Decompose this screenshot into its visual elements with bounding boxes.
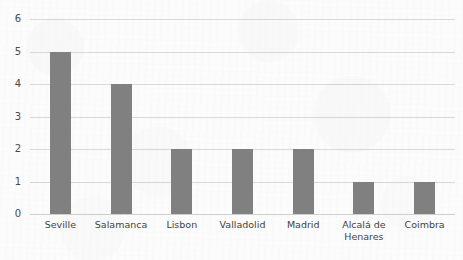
bars-layer xyxy=(30,19,455,214)
bar-chart: 0123456 SevilleSalamancaLisbonValladolid… xyxy=(0,0,463,260)
y-tick-label-6: 6 xyxy=(15,14,21,24)
y-tick-label-2: 2 xyxy=(15,144,21,154)
y-tick-label-3: 3 xyxy=(15,112,21,122)
gridline-0 xyxy=(30,214,455,215)
bar-seville[interactable] xyxy=(50,52,71,215)
y-tick-label-5: 5 xyxy=(15,47,21,57)
y-tick-label-1: 1 xyxy=(15,177,21,187)
category-label-coimbra: Coimbra xyxy=(389,219,461,231)
y-tick-label-4: 4 xyxy=(15,79,21,89)
bar-alcalá-de-henares[interactable] xyxy=(353,182,374,215)
bar-coimbra[interactable] xyxy=(414,182,435,215)
y-tick-label-0: 0 xyxy=(15,209,21,219)
bar-valladolid[interactable] xyxy=(232,149,253,214)
bar-lisbon[interactable] xyxy=(171,149,192,214)
bar-salamanca[interactable] xyxy=(111,84,132,214)
bar-madrid[interactable] xyxy=(293,149,314,214)
y-axis: 0123456 xyxy=(0,19,30,214)
x-axis-category-labels: SevilleSalamancaLisbonValladolidMadridAl… xyxy=(30,219,455,259)
